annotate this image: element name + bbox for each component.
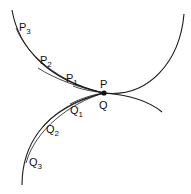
right-branch-curve [104,93,162,112]
label-q: Q [99,99,108,111]
chord-p-p3 [16,28,104,93]
upper-curve [12,10,184,93]
chord-q-q3 [26,93,104,163]
label-q3: Q3 [29,156,43,171]
label-p3: P3 [19,21,31,36]
label-q2: Q2 [46,123,60,138]
tangent-curves-diagram: P Q P3 P2 P1 Q1 Q2 Q3 [0,0,191,194]
point-pq-dot [101,90,106,95]
label-p: P [100,78,107,90]
label-q1: Q1 [70,104,84,119]
label-p1: P1 [66,72,78,87]
lower-curve [22,93,104,185]
